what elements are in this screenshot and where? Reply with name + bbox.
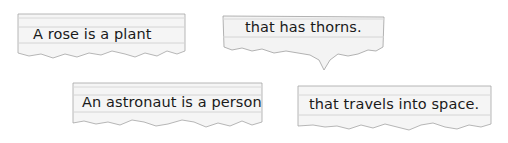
- paper-strip-4: that travels into space.: [297, 85, 493, 141]
- paper-strip-1: A rose is a plant: [17, 13, 187, 63]
- paper-strip-2: that has thorns.: [222, 15, 386, 75]
- paper-strip-3: An astronaut is a person: [72, 82, 264, 136]
- strip-text: An astronaut is a person: [82, 94, 264, 110]
- strip-text: that travels into space.: [309, 96, 493, 112]
- strip-text: that has thorns.: [245, 19, 386, 35]
- strip-text: A rose is a plant: [33, 26, 187, 42]
- torn-paper-shape: [297, 85, 493, 141]
